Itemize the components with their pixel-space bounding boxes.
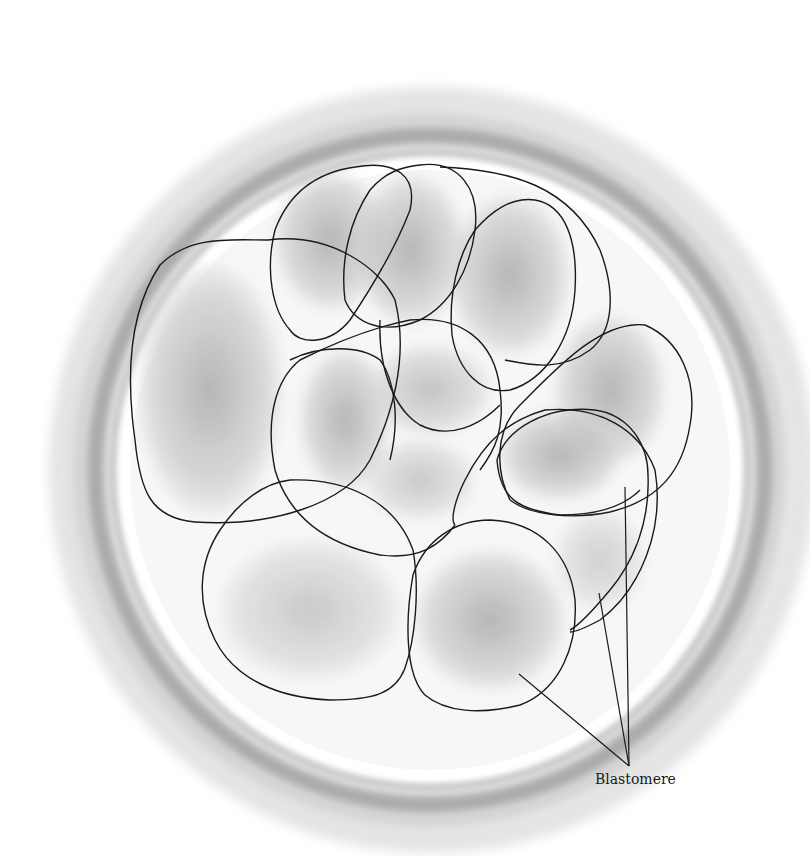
blastomere-label: Blastomere xyxy=(595,771,676,787)
embryo-illustration xyxy=(0,0,810,856)
